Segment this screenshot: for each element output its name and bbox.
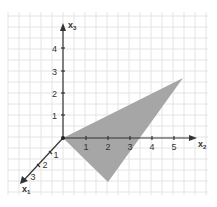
- x3-tick-label: 4: [52, 44, 57, 54]
- x3-tick-label: 1: [52, 111, 57, 121]
- x2-tick-label: 2: [105, 142, 110, 152]
- coordinate-diagram: 1 2 3 4 1 2 3 4 5 1 2 3 x3 x2 x1: [0, 0, 217, 207]
- x2-arrow-icon: [189, 135, 197, 141]
- x3-axis: [61, 28, 65, 138]
- x3-axis-label: x3: [68, 20, 77, 31]
- x2-tick-label: 5: [171, 142, 176, 152]
- x2-tick-label: 4: [149, 142, 154, 152]
- origin-point: [61, 136, 65, 140]
- x1-tick-label: 3: [30, 172, 35, 182]
- x3-tick-label: 2: [52, 89, 57, 99]
- x2-tick-label: 1: [83, 142, 88, 152]
- x2-tick-label: 3: [127, 142, 132, 152]
- x3-tick-label: 3: [52, 67, 57, 77]
- x1-tick-label: 2: [42, 160, 47, 170]
- shaded-triangle: [63, 78, 183, 182]
- x1-tick-label: 1: [53, 150, 58, 160]
